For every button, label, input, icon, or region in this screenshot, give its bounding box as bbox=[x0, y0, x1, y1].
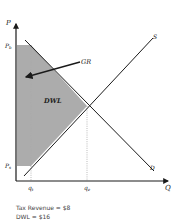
gr-label: GR bbox=[81, 58, 91, 66]
ps-label: Ps bbox=[4, 162, 11, 170]
supply-demand-chart: P Q Pb Ps qt qe S D GR DWL bbox=[0, 0, 174, 200]
summary-text: Tax Revenue = $8 DWL = $16 bbox=[16, 203, 70, 221]
dwl-text: DWL = $16 bbox=[16, 212, 70, 221]
dwl-region bbox=[31, 45, 87, 166]
qt-label: qt bbox=[28, 184, 34, 192]
demand-label: D bbox=[149, 164, 155, 171]
tax-revenue-region bbox=[17, 45, 31, 166]
tax-revenue-text: Tax Revenue = $8 bbox=[16, 203, 70, 212]
qe-label: qe bbox=[84, 184, 91, 192]
supply-label: S bbox=[153, 33, 157, 40]
x-axis-label: Q bbox=[165, 184, 171, 192]
y-axis-label: P bbox=[5, 19, 11, 27]
dwl-label: DWL bbox=[43, 97, 62, 105]
pb-label: Pb bbox=[4, 42, 12, 50]
